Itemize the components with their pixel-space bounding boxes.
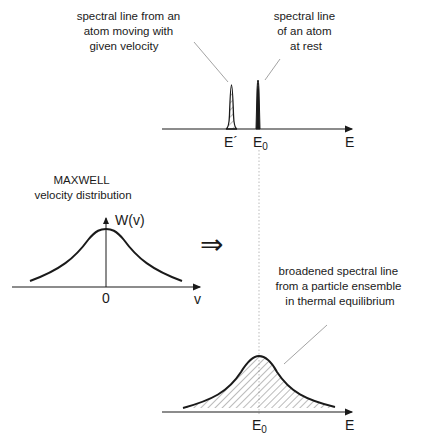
leader-rest-atom (265, 59, 280, 80)
moving-atom-label: spectral line from an atom moving with g… (77, 10, 184, 52)
e0-tick-label-bottom: E0 (252, 417, 267, 435)
top-spectrum-panel: spectral line from an atom moving with g… (77, 10, 355, 152)
shifted-spectral-line (226, 85, 237, 129)
e-prime-tick-label: E´ (224, 134, 238, 150)
broadened-line-annotation: broadened spectral line from a particle … (275, 265, 404, 307)
implies-arrow-icon: ⇒ (200, 228, 223, 261)
v-zero-tick: 0 (102, 290, 110, 306)
v-axis-label: v (194, 291, 201, 307)
leader-broadened (284, 325, 327, 364)
leader-moving-atom (194, 42, 228, 82)
maxwell-title: MAXWELL velocity distribution (34, 174, 131, 201)
rest-spectral-line (256, 80, 260, 129)
bottom-e-axis-label: E (345, 417, 354, 433)
w-axis-label: W(v) (115, 212, 145, 228)
e0-tick-label-top: E0 (253, 134, 268, 152)
doppler-broadening-diagram: spectral line from an atom moving with g… (0, 0, 426, 446)
rest-atom-label: spectral line of an atom at rest (274, 10, 339, 52)
top-e-axis-label: E (345, 134, 354, 150)
maxwell-distribution-panel: MAXWELL velocity distribution W(v) 0 v (12, 174, 201, 307)
